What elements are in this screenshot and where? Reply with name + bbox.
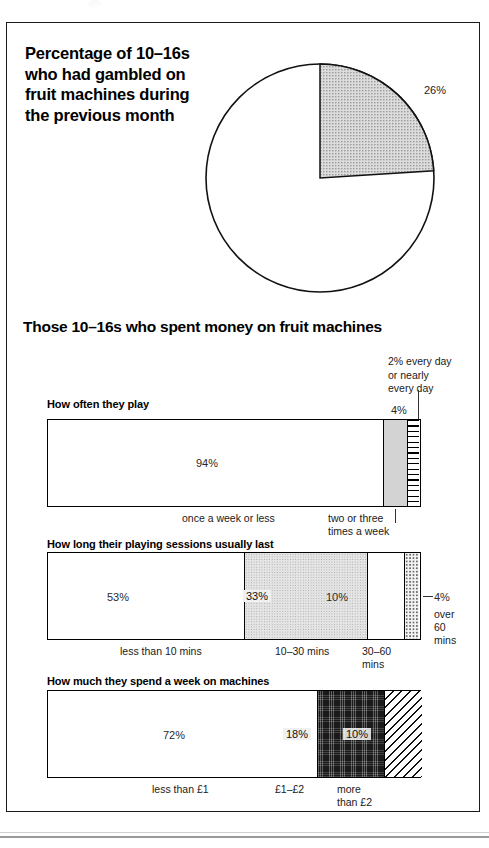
infographic-root: Percentage of 10–16s who had gambled on … (0, 0, 489, 848)
chart1-category-two-three: two or three times a week (328, 512, 389, 538)
chart3-category-lt1: less than £1 (152, 783, 209, 796)
chart1-segment-two-or-three-times (383, 420, 407, 506)
chart1-category-once: once a week or less (182, 512, 275, 525)
chart1-value-two-three: 4% (391, 404, 407, 416)
pie-title-line-4: the previous month (25, 106, 175, 124)
chart3-value-lt1: 72% (163, 729, 185, 741)
pie-chart (203, 57, 439, 301)
pie-slice-26 (320, 64, 434, 178)
chart1-callout-leader (418, 390, 419, 420)
pie-title-line-2: who had gambled on (25, 65, 185, 83)
chart2-segment-over-60-mins (404, 553, 419, 639)
chart2-value-lt10: 53% (107, 591, 129, 603)
chart2-category-30-60: 30–60 mins (362, 645, 391, 671)
chart2-category-lt10: less than 10 mins (120, 645, 202, 658)
pie-title-line-3: fruit machines during (25, 85, 189, 103)
chart2-value-10-30: 33% (243, 590, 271, 602)
chart3-value-1-2: 18% (283, 728, 311, 740)
chart2-segment-less-than-10-mins (48, 553, 244, 639)
chart2-category-over60: over 60 mins (434, 608, 456, 647)
chart3-category-more2: more than £2 (337, 783, 372, 809)
page-divider (0, 836, 489, 838)
chart1-bar (47, 419, 421, 507)
pie-title-line-1: Percentage of 10–16s (25, 44, 190, 62)
chart1-category-leader (395, 509, 396, 523)
chart2-category-10-30: 10–30 mins (275, 645, 329, 658)
section-heading: Those 10–16s who spent money on fruit ma… (23, 318, 382, 336)
chart1-segment-every-day (407, 420, 419, 506)
chart3-category-1-2: £1–£2 (275, 783, 304, 796)
chart3-segment-more-than-2-pounds (384, 691, 422, 777)
chart1-title: How often they play (47, 398, 149, 410)
chart2-value-over60: 4% (434, 591, 450, 603)
chart3-value-more2: 10% (343, 728, 371, 740)
page-divider-light (0, 832, 489, 833)
pie-slice-label: 26% (424, 84, 446, 96)
chart2-title: How long their playing sessions usually … (47, 538, 274, 550)
chart3-title: How much they spend a week on machines (47, 675, 269, 687)
scan-artifact (88, 0, 102, 9)
chart2-segment-30-60-mins (367, 553, 404, 639)
pie-title: Percentage of 10–16s who had gambled on … (25, 43, 225, 125)
chart2-value-leader (423, 596, 433, 597)
pie-svg (203, 57, 439, 301)
chart2-value-30-60: 10% (326, 591, 348, 603)
chart1-callout-every-day: 2% every day or nearly every day (388, 355, 486, 396)
chart1-value-once: 94% (196, 457, 218, 469)
chart2-bar (47, 552, 421, 640)
